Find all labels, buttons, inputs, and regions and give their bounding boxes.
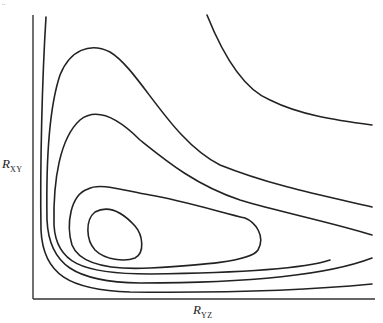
contour-loop-outer <box>69 186 260 268</box>
contour-tongue-large <box>47 48 372 283</box>
contour-loop-inner <box>88 209 142 260</box>
contour-top-right <box>207 15 372 125</box>
y-axis-symbol: R <box>2 156 10 171</box>
contour-outer-l <box>41 17 372 292</box>
y-axis-subscript: XY <box>10 165 23 174</box>
contour-tongue-small <box>54 114 372 274</box>
y-axis-label: RXY <box>2 156 23 174</box>
x-axis-label: RYZ <box>193 302 213 320</box>
x-axis-symbol: R <box>193 302 201 317</box>
x-axis-subscript: YZ <box>201 311 213 320</box>
contour-plot <box>0 0 383 323</box>
